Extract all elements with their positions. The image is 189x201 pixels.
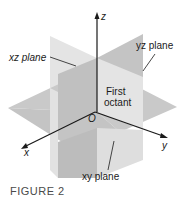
figure-caption: FIGURE 2	[10, 185, 65, 197]
x-axis-label: x	[23, 147, 30, 158]
y-axis-label: y	[161, 140, 168, 151]
z-axis-arrowhead-icon	[95, 12, 100, 19]
xz-plane-label: xz plane	[8, 52, 47, 63]
yz-plane-label: yz plane	[136, 40, 174, 51]
yz-plane-label-text: yz plane	[136, 40, 174, 51]
xz-plane-label-text: xz plane	[8, 52, 47, 63]
y-axis-arrowhead-icon	[160, 133, 168, 138]
xy-plane-label: xy plane	[82, 171, 120, 182]
xy-plane-label-text: xy plane	[82, 171, 120, 182]
first-octant-label-line2: octant	[104, 97, 131, 108]
first-octant-label-line1: First	[106, 86, 126, 97]
origin-label: O	[88, 113, 96, 124]
coordinate-planes-diagram: z x y O xz plane yz plane xy plane First…	[0, 0, 189, 201]
yz-plane-leader	[143, 54, 155, 71]
z-axis-label: z	[100, 11, 106, 22]
